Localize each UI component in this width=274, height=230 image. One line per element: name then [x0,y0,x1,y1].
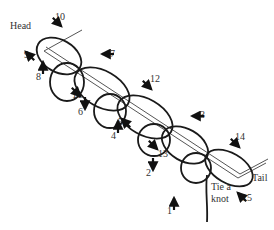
step-number: 4 [111,130,116,141]
step-number: 3 [200,109,205,120]
step-number: 8 [36,71,41,82]
knot-diagram: Head Tail Tie a knot 1234567891011121314… [0,0,274,230]
head-label: Head [10,20,31,31]
tie-label-line2: knot [211,193,229,204]
direction-arrow-icon [149,141,157,149]
step-number: 2 [146,167,151,178]
tie-label-line1: Tie a [211,181,231,192]
step-number: 1 [167,205,172,216]
step-number: 14 [235,131,245,142]
step-number: 6 [78,106,83,117]
tail-label: Tail [252,172,268,183]
step-number: 12 [150,73,160,84]
step-number: 13 [158,148,168,159]
